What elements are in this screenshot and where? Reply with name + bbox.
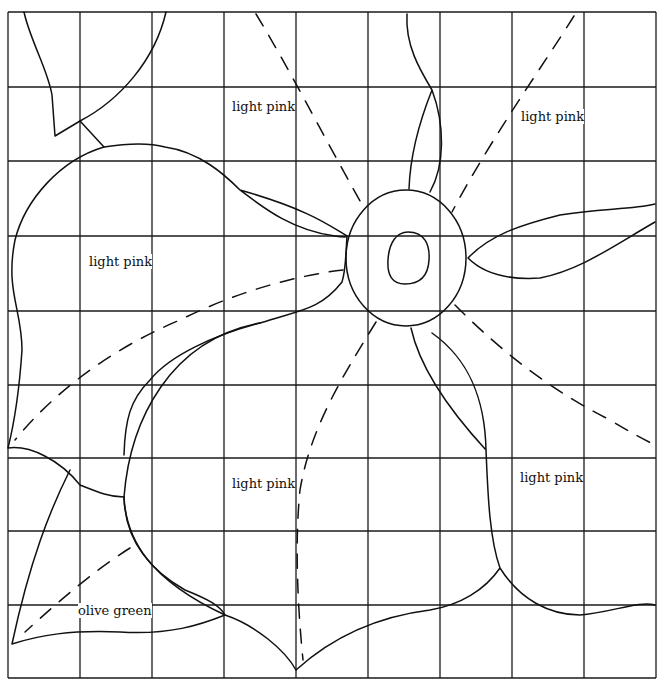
coloring-pattern bbox=[0, 0, 663, 687]
right-petal-vein bbox=[455, 305, 655, 445]
color-label-top-center-petal: light pink bbox=[232, 99, 295, 114]
color-label-leaf: olive green bbox=[78, 603, 152, 618]
bottom-center-petal-vein bbox=[297, 322, 376, 660]
color-label-top-right-petal: light pink bbox=[521, 109, 584, 124]
color-label-left-petal: light pink bbox=[89, 254, 152, 269]
color-label-bottom-right-petal: light pink bbox=[520, 470, 583, 485]
color-label-bottom-center-petal: light pink bbox=[232, 476, 295, 491]
flower-center-circle bbox=[346, 190, 466, 326]
right-petal-outline bbox=[468, 204, 655, 278]
bottom-right-petal-outline bbox=[296, 328, 655, 670]
bottom-left-leaf-vein bbox=[25, 548, 130, 632]
flower-center-inner-oval bbox=[388, 232, 429, 284]
top-left-leaf-outline bbox=[24, 12, 166, 136]
top-left-leaf-stem bbox=[80, 121, 104, 147]
top-right-petal-stalk bbox=[407, 14, 442, 192]
